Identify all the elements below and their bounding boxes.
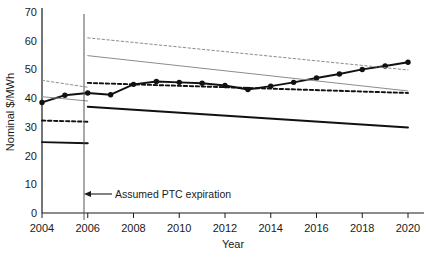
- data-point-marker: [337, 71, 342, 76]
- data-point-marker: [405, 60, 410, 65]
- data-point-marker: [199, 81, 204, 86]
- ptc-annotation-arrow: [84, 191, 112, 197]
- x-tick-label: 2008: [121, 222, 145, 234]
- x-tick-label: 2018: [350, 222, 374, 234]
- data-point-marker: [108, 92, 113, 97]
- data-point-marker: [39, 100, 44, 105]
- series-line-black-solid-lower: [88, 107, 408, 128]
- chart-container: 010203040506070 200420062008201020122014…: [0, 0, 431, 258]
- y-tick-label: 30: [25, 121, 37, 133]
- x-axis-ticks: 200420062008201020122014201620182020: [30, 213, 420, 234]
- x-tick-label: 2016: [304, 222, 328, 234]
- x-tick-label: 2012: [213, 222, 237, 234]
- ptc-annotation-label: Assumed PTC expiration: [115, 188, 231, 200]
- x-tick-label: 2020: [396, 222, 420, 234]
- y-axis-ticks: 010203040506070: [25, 6, 37, 219]
- series-line-black-solid-lower-pre: [42, 142, 88, 143]
- line-chart: 010203040506070 200420062008201020122014…: [0, 0, 431, 258]
- data-point-marker: [291, 80, 296, 85]
- x-tick-label: 2010: [167, 222, 191, 234]
- data-point-marker: [62, 93, 67, 98]
- data-point-marker: [314, 75, 319, 80]
- y-tick-label: 50: [25, 63, 37, 75]
- series-layer: [39, 38, 410, 143]
- y-tick-label: 40: [25, 92, 37, 104]
- y-axis-title: Nominal $/MWh: [4, 73, 16, 151]
- y-tick-label: 10: [25, 178, 37, 190]
- x-tick-label: 2006: [76, 222, 100, 234]
- y-tick-label: 60: [25, 35, 37, 47]
- y-tick-label: 20: [25, 150, 37, 162]
- series-line-gray-dashed-pre: [42, 80, 88, 87]
- y-tick-label: 0: [31, 207, 37, 219]
- x-axis-title: Year: [222, 238, 245, 250]
- data-point-marker: [360, 67, 365, 72]
- data-point-marker: [177, 80, 182, 85]
- data-point-marker: [154, 79, 159, 84]
- x-tick-label: 2014: [259, 222, 283, 234]
- series-line-black-dashed-lower-pre: [42, 121, 88, 122]
- series-line-gray-dashed-upper: [88, 38, 408, 70]
- x-tick-label: 2004: [30, 222, 54, 234]
- data-point-marker: [85, 90, 90, 95]
- y-tick-label: 70: [25, 6, 37, 18]
